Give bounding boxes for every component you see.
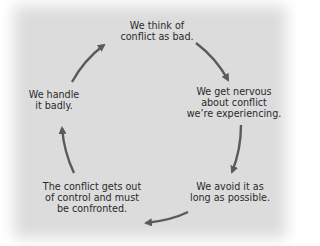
- node-text-line: of control and must: [36, 192, 148, 203]
- arrow-n3-to-n4: [146, 212, 188, 223]
- node-text-line: about conflict: [184, 97, 284, 108]
- node-get-nervous: We get nervous about conflict we’re expe…: [184, 86, 284, 119]
- node-text-line: long as possible.: [182, 192, 278, 203]
- node-think-of-conflict-as-bad: We think of conflict as bad.: [112, 20, 202, 42]
- node-text-line: we’re experiencing.: [184, 108, 284, 119]
- node-text-line: We think of: [112, 20, 202, 31]
- node-text-line: conflict as bad.: [112, 31, 202, 42]
- node-text-line: be confronted.: [36, 203, 148, 214]
- node-text-line: The conflict gets out: [36, 181, 148, 192]
- node-conflict-out-of-control: The conflict gets out of control and mus…: [36, 181, 148, 214]
- arrow-n4-to-n5: [62, 128, 74, 173]
- node-text-line: We avoid it as: [182, 181, 278, 192]
- node-avoid-it: We avoid it as long as possible.: [182, 181, 278, 203]
- node-text-line: it badly.: [24, 100, 84, 111]
- node-handle-it-badly: We handle it badly.: [24, 89, 84, 111]
- node-text-line: We get nervous: [184, 86, 284, 97]
- arrow-n1-to-n2: [196, 43, 228, 80]
- node-text-line: We handle: [24, 89, 84, 100]
- arrow-n5-to-n1: [72, 45, 104, 82]
- arrow-n2-to-n3: [232, 125, 241, 172]
